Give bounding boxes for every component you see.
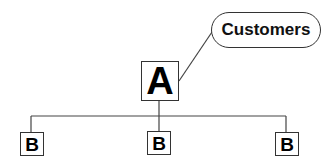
callout-customers: Customers xyxy=(211,12,321,48)
child-node-label: B xyxy=(152,134,166,153)
callout-connector xyxy=(179,32,212,81)
child-node-left: B xyxy=(20,132,44,156)
root-node-label: A xyxy=(146,62,173,100)
root-node-a: A xyxy=(141,61,179,101)
child-node-right: B xyxy=(275,132,299,156)
callout-label: Customers xyxy=(222,20,311,40)
child-node-label: B xyxy=(280,135,294,154)
child-node-center: B xyxy=(147,131,171,155)
child-node-label: B xyxy=(25,135,39,154)
